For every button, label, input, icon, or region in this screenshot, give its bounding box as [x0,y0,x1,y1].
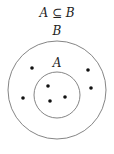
element-in-b [86,68,90,72]
element-in-b [30,66,34,70]
element-in-b [21,96,25,100]
set-a-circle [34,72,80,118]
element-in-a [63,95,67,99]
element-in-b [89,86,93,90]
element-in-a [48,99,52,103]
venn-diagram: A ⊆ B B A [0,0,114,154]
set-a-label: A [52,56,62,70]
set-b-label: B [52,24,62,38]
subset-title: A ⊆ B [38,6,74,20]
element-in-a [46,84,50,88]
